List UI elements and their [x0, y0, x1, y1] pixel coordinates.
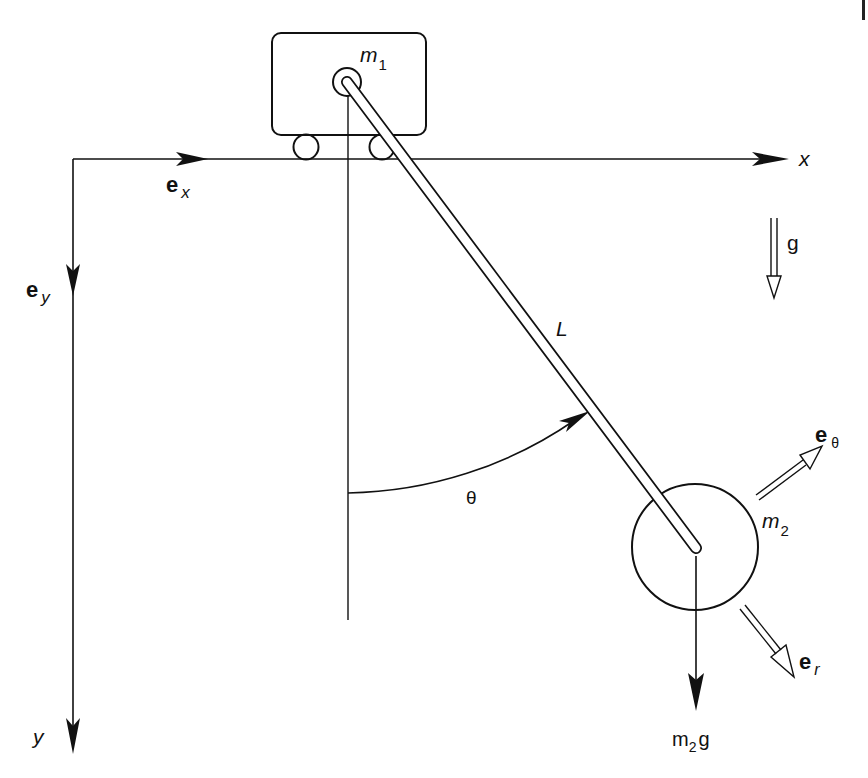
e-theta-label: eθ	[815, 422, 839, 451]
theta-arrowhead-icon	[559, 411, 590, 432]
page-edge-mark	[862, 0, 865, 20]
e-r-unit-vector-icon	[740, 605, 794, 677]
e-r-label: er	[799, 649, 820, 678]
gravity-label: g	[787, 231, 799, 254]
bob-mass-label: m2	[762, 509, 789, 539]
pendulum-rod-fill	[347, 82, 696, 548]
x-axis-label: x	[798, 147, 811, 170]
ex-unit-vector-label: ex	[166, 172, 190, 202]
cart-wheel-left	[294, 135, 319, 160]
y-axis-label: y	[31, 725, 45, 748]
theta-angle-label: θ	[466, 487, 477, 508]
gravity-arrow-icon	[767, 218, 781, 298]
cart-mass-label: m1	[360, 43, 387, 73]
theta-angle-arc	[348, 420, 575, 493]
pendulum-cart-diagram: m1 x y ex ey g L θ m2 eθ er m2g	[0, 0, 868, 778]
e-theta-unit-vector-icon	[756, 446, 822, 500]
weight-force-label: m2g	[672, 728, 710, 755]
rod-length-label: L	[556, 317, 568, 340]
ey-unit-vector-label: ey	[26, 277, 51, 307]
